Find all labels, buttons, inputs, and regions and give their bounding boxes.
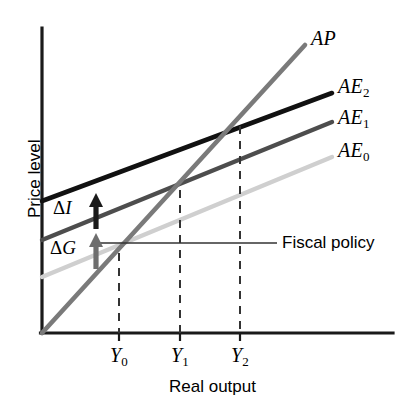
- y-axis-title: Price level: [26, 140, 43, 218]
- curve-ae2: [42, 93, 332, 201]
- ap-label: AP: [311, 28, 336, 48]
- economics-diagram: AP AE2 AE1 AE0 ΔI ΔG Fiscal policy Y0 Y1…: [0, 0, 405, 403]
- ae2-label: AE2: [338, 76, 370, 96]
- curve-ap: [42, 45, 305, 333]
- delta-i-arrow: [89, 193, 103, 229]
- curve-ae1: [42, 122, 332, 240]
- fiscal-policy-label: Fiscal policy: [282, 234, 375, 251]
- x-tick-label-y0: Y0: [110, 345, 128, 365]
- delta-i-label: ΔI: [53, 198, 72, 217]
- x-axis-title: Real output: [169, 378, 256, 395]
- x-tick-label-y2: Y2: [231, 345, 249, 365]
- ae0-label: AE0: [338, 140, 370, 160]
- x-tick-label-y1: Y1: [171, 345, 189, 365]
- delta-g-label: ΔG: [50, 238, 76, 257]
- ae1-label: AE1: [338, 107, 370, 127]
